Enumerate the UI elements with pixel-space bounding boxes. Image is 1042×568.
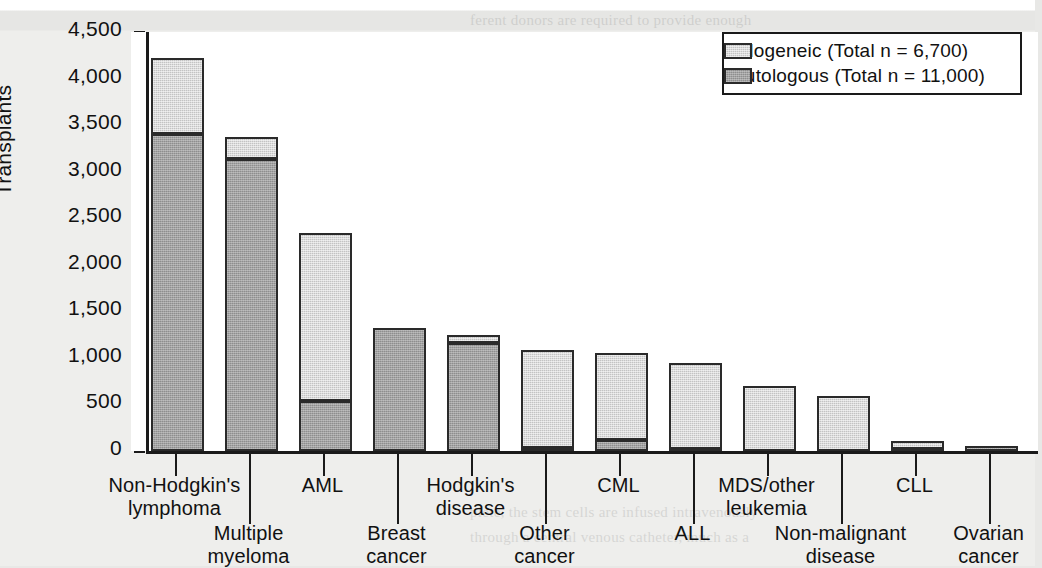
bar-segment-autologous (299, 401, 352, 451)
y-axis-title: Transplants (0, 0, 16, 196)
bar-segment-autologous (595, 440, 648, 451)
bar (817, 396, 870, 451)
bar-segment-allogeneic (521, 350, 574, 449)
bar-segment-allogeneic (447, 335, 500, 343)
bar (521, 350, 574, 451)
bar (225, 137, 278, 451)
x-axis-tick (471, 454, 473, 476)
bar (447, 335, 500, 451)
bar-segment-autologous (447, 343, 500, 451)
y-axis-tick-label: 4,000 (26, 64, 122, 88)
x-axis-tick (767, 454, 769, 476)
x-axis-tick (989, 454, 991, 524)
plot-area (146, 32, 1038, 454)
bar (743, 386, 796, 451)
bar-segment-allogeneic (225, 137, 278, 158)
y-axis-tick-label: 2,000 (26, 250, 122, 274)
legend-item-autologous: Autologous (Total n = 11,000) (732, 63, 1012, 88)
y-axis-tick-label: 3,500 (26, 110, 122, 134)
bar (595, 353, 648, 451)
x-axis-tick (175, 454, 177, 476)
x-axis-tick-label: CLL (825, 474, 1005, 497)
bar-segment-allogeneic (669, 363, 722, 449)
y-axis-tick-label: 4,500 (26, 17, 122, 41)
bar-segment-autologous (225, 159, 278, 451)
bar-segment-allogeneic (817, 396, 870, 451)
y-axis-tick-label: 2,500 (26, 203, 122, 227)
bar (151, 58, 204, 451)
legend-swatch-autologous (724, 68, 752, 84)
bar-segment-autologous (151, 134, 204, 451)
y-axis-tick-label: 1,000 (26, 343, 122, 367)
x-axis-tick-label: Ovariancancer (899, 522, 1042, 568)
legend-label-autologous: Autologous (Total n = 11,000) (732, 65, 985, 87)
bar-segment-autologous (373, 328, 426, 451)
legend-label-allogeneic: Allogeneic (Total n = 6,700) (732, 40, 968, 62)
legend-item-allogeneic: Allogeneic (Total n = 6,700) (732, 38, 1012, 63)
legend: Allogeneic (Total n = 6,700) Autologous … (722, 32, 1022, 95)
bar (891, 441, 944, 451)
bar (299, 233, 352, 451)
x-axis-tick (323, 454, 325, 476)
bar (669, 363, 722, 451)
y-axis-tick-label: 3,000 (26, 157, 122, 181)
bar (965, 446, 1018, 451)
y-axis-tick-label: 1,500 (26, 296, 122, 320)
bar-segment-allogeneic (595, 353, 648, 440)
legend-swatch-allogeneic (724, 43, 752, 59)
bar-segment-autologous (965, 446, 1018, 451)
bar (373, 328, 426, 451)
axis-backdrop (131, 32, 146, 451)
bar-segment-allogeneic (743, 386, 796, 451)
y-axis-tick-label: 0 (26, 436, 122, 460)
y-axis-tick-label: 500 (26, 389, 122, 413)
x-axis-tick (619, 454, 621, 476)
bar-segment-allogeneic (151, 58, 204, 134)
bar-segment-allogeneic (891, 441, 944, 448)
x-axis-tick (915, 454, 917, 476)
bar-segment-allogeneic (299, 233, 352, 401)
